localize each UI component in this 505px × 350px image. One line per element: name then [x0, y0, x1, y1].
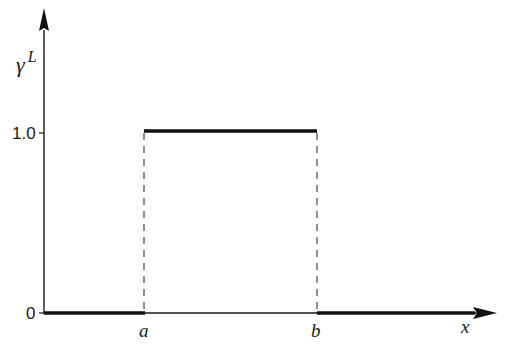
x-axis-label: x	[460, 316, 470, 337]
chart: γL 1.0 0 a b x	[0, 0, 505, 350]
series-line	[44, 131, 475, 313]
y-tick-label-0: 0	[26, 304, 35, 323]
dashed-guides	[144, 133, 317, 313]
y-axis-label: γL	[16, 48, 37, 77]
x-tick-label-b: b	[311, 320, 321, 341]
x-tick-label-a: a	[139, 320, 149, 341]
y-axis-arrow-icon	[39, 8, 49, 31]
y-axis	[39, 8, 49, 314]
y-tick-label-1: 1.0	[12, 124, 36, 143]
